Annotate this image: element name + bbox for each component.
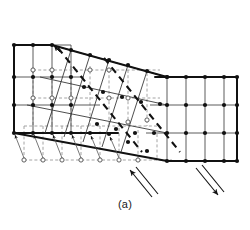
figure-caption: (a) [0, 198, 250, 210]
right-shear-arrow [196, 165, 224, 195]
reference-dashed-grid [24, 66, 172, 160]
displacement-arrows [15, 135, 119, 158]
shear-band-lattice [27, 45, 167, 152]
lattice-nodes-open [22, 68, 149, 162]
sheared-lattice-figure [0, 0, 250, 230]
right-lattice-grid [146, 77, 237, 161]
left-shear-arrow [130, 167, 158, 197]
